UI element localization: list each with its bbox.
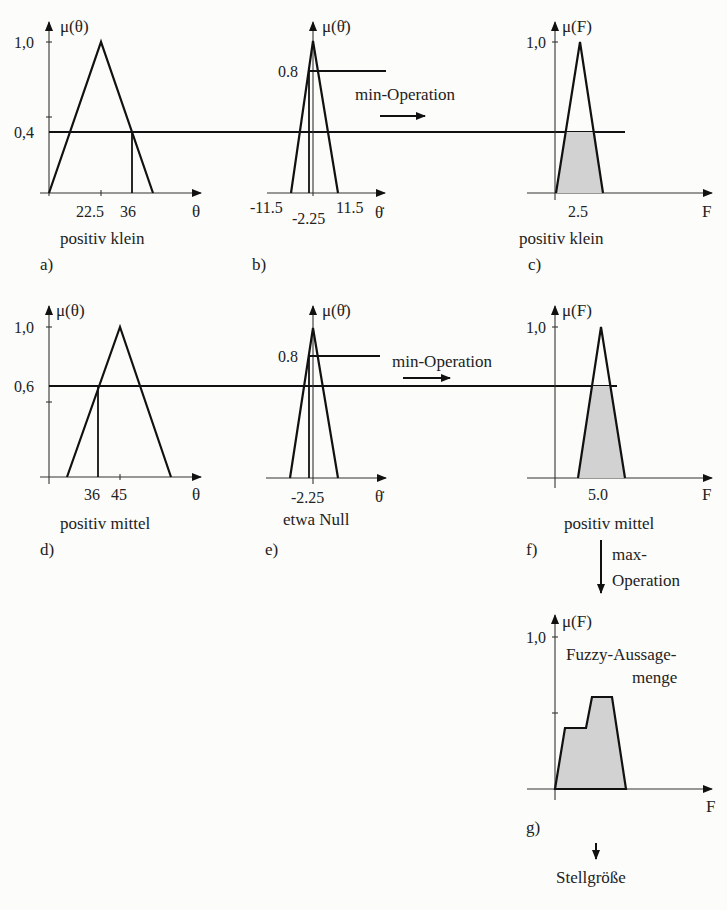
b-ytick-08: 0.8	[278, 63, 298, 80]
max-operation-label-2: Operation	[612, 571, 680, 590]
a-xtick-36: 36	[120, 203, 136, 220]
g-xlabel: F	[706, 797, 715, 816]
g-ylabel: μ(F)	[562, 612, 592, 631]
b-membership-triangle	[291, 41, 338, 193]
b-xlabel: θ̇	[375, 203, 384, 222]
c-panel-label: c)	[528, 255, 541, 274]
d-panel-label: d)	[40, 540, 54, 559]
b-xtick-m115: -11.5	[250, 199, 283, 216]
output-label: Stellgröße	[556, 868, 626, 887]
b-xtick-m225: -2.25	[292, 210, 325, 227]
a-ytick-1: 1,0	[14, 34, 34, 51]
a-ylabel: μ(θ)	[60, 17, 89, 36]
d-ytick-06: 0,6	[14, 378, 34, 395]
d-membership-triangle	[67, 327, 171, 477]
a-panel-label: a)	[40, 255, 53, 274]
f-title: positiv mittel	[564, 514, 654, 533]
c-ylabel: μ(F)	[562, 17, 592, 36]
a-title: positiv klein	[60, 229, 145, 248]
min-operation-label-2: min-Operation	[392, 352, 493, 371]
c-ytick-1: 1,0	[526, 34, 546, 51]
g-panel-label: g)	[526, 818, 540, 837]
panel-c: μ(F) 1,0 2.5 F positiv klein c)	[519, 17, 712, 274]
panel-d: μ(θ) 1,0 0,6 36 45 θ positiv mittel d)	[14, 301, 201, 559]
d-xlabel: θ	[192, 485, 200, 504]
e-xtick-m225: -2.25	[291, 489, 324, 506]
e-xlabel: θ̇	[375, 487, 384, 506]
e-panel-label: e)	[265, 540, 278, 559]
max-operation-label-1: max-	[612, 545, 647, 564]
panel-a: μ(θ) 1,0 0,4 22.5 36 θ positiv klein a)	[14, 17, 201, 274]
d-xtick-45: 45	[111, 486, 127, 503]
g-title-line2: menge	[632, 668, 677, 687]
min-operation-label-1: min-Operation	[355, 85, 456, 104]
f-xtick-50: 5.0	[588, 486, 608, 503]
panel-e: μ(θ̇) 0.8 -2.25 θ̇ etwa Null e)	[265, 301, 386, 559]
d-title: positiv mittel	[60, 514, 150, 533]
e-title: etwa Null	[283, 510, 350, 529]
e-ylabel: μ(θ̇)	[322, 301, 351, 320]
panel-b: μ(θ̇) 0.8 -11.5 -2.25 11.5 θ̇ b)	[250, 17, 386, 274]
a-ytick-04: 0,4	[14, 124, 34, 141]
c-title: positiv klein	[519, 229, 604, 248]
f-ylabel: μ(F)	[562, 301, 592, 320]
c-xlabel: F	[702, 202, 711, 221]
g-title-line1: Fuzzy-Aussage-	[566, 645, 677, 664]
panel-g: μ(F) 1,0 Fuzzy-Aussage- menge F g)	[526, 612, 715, 837]
a-xlabel: θ	[192, 202, 200, 221]
panel-f: μ(F) 1,0 5.0 F positiv mittel f)	[526, 301, 712, 559]
b-xtick-115: 11.5	[336, 199, 363, 216]
b-panel-label: b)	[252, 255, 266, 274]
c-xtick-25: 2.5	[568, 203, 588, 220]
e-ytick-08: 0.8	[278, 348, 298, 365]
a-xtick-225: 22.5	[76, 203, 104, 220]
g-aggregated-area	[555, 697, 626, 789]
g-ytick-1: 1,0	[526, 629, 546, 646]
fuzzy-inference-diagram: μ(θ) 1,0 0,4 22.5 36 θ positiv klein a) …	[0, 0, 727, 910]
a-membership-triangle	[49, 42, 153, 193]
f-panel-label: f)	[526, 540, 537, 559]
b-ylabel: μ(θ̇)	[322, 17, 351, 36]
d-ytick-1: 1,0	[14, 319, 34, 336]
d-ylabel: μ(θ)	[56, 301, 85, 320]
f-xlabel: F	[702, 485, 711, 504]
f-ytick-1: 1,0	[526, 319, 546, 336]
d-xtick-36: 36	[84, 486, 100, 503]
